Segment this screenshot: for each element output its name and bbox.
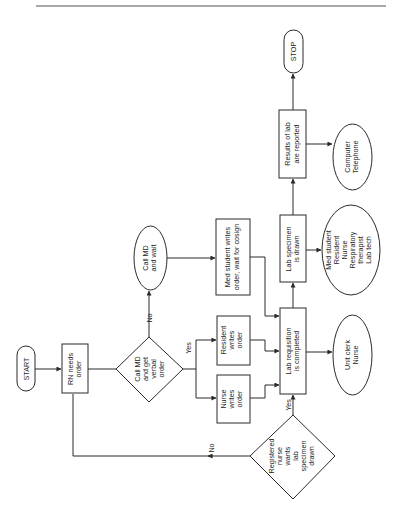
resident-writes-box: Resident writes order — [217, 316, 250, 365]
svg-text:Telephone: Telephone — [351, 140, 360, 173]
svg-text:are reported: are reported — [292, 124, 301, 163]
nurse-writes-box: Nurse writes order — [217, 375, 250, 423]
unit-clerk-nurse-ellipse: Unit clerk Nurse — [333, 315, 372, 395]
svg-text:is completed: is completed — [292, 331, 301, 371]
svg-text:order: order — [157, 360, 166, 377]
start-label: START — [22, 357, 31, 381]
lab-requisition-box: Lab requisition is completed — [280, 308, 306, 394]
lab-specimen-box: Lab specimen is drawn — [280, 215, 306, 282]
stop-terminal: STOP — [284, 30, 303, 73]
svg-text:is drawn: is drawn — [292, 236, 301, 263]
edge-label-yes-rn: Yes — [284, 399, 293, 411]
edge-med-student-to-req — [250, 257, 279, 316]
edge-resident-to-req — [250, 340, 279, 351]
start-terminal: START — [17, 346, 35, 391]
stop-label: STOP — [289, 42, 298, 62]
results-reported-box: Results of lab are reported — [279, 110, 306, 178]
svg-text:Results of lab: Results of lab — [283, 122, 292, 166]
svg-text:Med student writes: Med student writes — [223, 226, 232, 287]
edge-label-no: No — [145, 313, 154, 322]
svg-text:and wait: and wait — [149, 245, 158, 272]
svg-text:Lab tech: Lab tech — [364, 236, 373, 264]
med-student-writes-box: Med student writes order, wait for cosig… — [216, 219, 250, 295]
edge-rn-wants-no-return — [73, 394, 210, 456]
edge-nurse-to-req — [250, 385, 279, 398]
svg-text:order: order — [235, 390, 244, 407]
svg-text:Nurse: Nurse — [351, 345, 360, 364]
svg-text:order: order — [74, 360, 83, 377]
call-md-verbal-decision: Call MD and get verbal order — [116, 337, 183, 402]
flowchart: START RN needs order Call MD and get ver… — [0, 0, 401, 514]
svg-text:order: order — [235, 331, 244, 348]
rn-wants-specimen-decision: Registered nurse wants lab specimen draw… — [250, 415, 335, 499]
call-md-wait-ellipse: Call MD and wait — [134, 226, 167, 290]
specimen-staff-ellipse: Med student Resident Nurse Respiratory t… — [322, 205, 380, 295]
svg-text:drawn: drawn — [307, 446, 316, 466]
edge-label-yes: Yes — [184, 342, 193, 354]
computer-telephone-ellipse: Computer Telephone — [333, 124, 372, 190]
edge-label-no-rn: No — [207, 443, 216, 452]
rn-needs-order-box: RN needs order — [62, 344, 88, 393]
svg-text:order, wait for cosign: order, wait for cosign — [232, 224, 241, 290]
